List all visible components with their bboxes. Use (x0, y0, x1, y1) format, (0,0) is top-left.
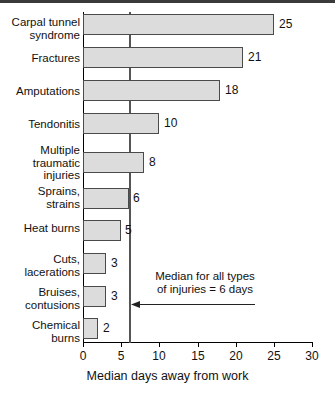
bar-value-label: 8 (149, 152, 156, 173)
x-tick-mark (83, 342, 84, 347)
category-label: Fractures (31, 52, 80, 65)
median-annotation-text: Median for all types of injuries = 6 day… (140, 270, 270, 296)
bar (83, 220, 121, 241)
bar-value-label: 18 (225, 80, 238, 101)
x-tick-label: 10 (145, 349, 173, 363)
x-tick-label: 25 (260, 349, 288, 363)
category-label: Heat burns (24, 222, 80, 235)
category-label: Bruises, contusions (25, 286, 80, 311)
bar-value-label: 10 (164, 113, 177, 134)
bar (83, 47, 243, 68)
category-label: Tendonitis (28, 118, 80, 131)
x-axis-title: Median days away from work (0, 369, 335, 383)
x-tick-label: 15 (184, 349, 212, 363)
category-label: Amputations (16, 85, 80, 98)
bar-chart-figure: Carpal tunnel syndrome 25 Fractures 21 A… (0, 0, 335, 395)
bar-value-label: 25 (279, 14, 292, 35)
left-arrow-icon (131, 300, 255, 309)
x-tick-mark (274, 342, 275, 347)
x-tick-label: 30 (298, 349, 326, 363)
bar (83, 286, 106, 307)
bar-value-label: 5 (125, 220, 132, 241)
x-tick-mark (312, 342, 313, 347)
x-tick-label: 0 (69, 349, 97, 363)
bar-value-label: 21 (248, 47, 261, 68)
bar-value-label: 3 (111, 286, 118, 307)
bar-value-label: 6 (133, 188, 140, 209)
x-tick-mark (236, 342, 237, 347)
category-label: Carpal tunnel syndrome (12, 16, 80, 41)
bar (83, 14, 274, 35)
bar (83, 113, 159, 134)
bar (83, 253, 106, 274)
category-label: Sprains, strains (38, 185, 80, 210)
bar (83, 318, 98, 339)
bar (83, 188, 129, 209)
x-tick-label: 20 (222, 349, 250, 363)
bar-value-label: 3 (111, 253, 118, 274)
plot-area: Carpal tunnel syndrome 25 Fractures 21 A… (0, 0, 335, 395)
x-tick-mark (121, 342, 122, 347)
bar (83, 80, 220, 101)
x-tick-label: 5 (107, 349, 135, 363)
category-label: Cuts, lacerations (24, 253, 80, 278)
category-label: Chemical burns (32, 319, 80, 344)
category-label: Multiple traumatic injuries (33, 144, 80, 182)
x-tick-mark (198, 342, 199, 347)
bar-value-label: 2 (103, 318, 110, 339)
bar (83, 152, 144, 173)
x-tick-mark (159, 342, 160, 347)
